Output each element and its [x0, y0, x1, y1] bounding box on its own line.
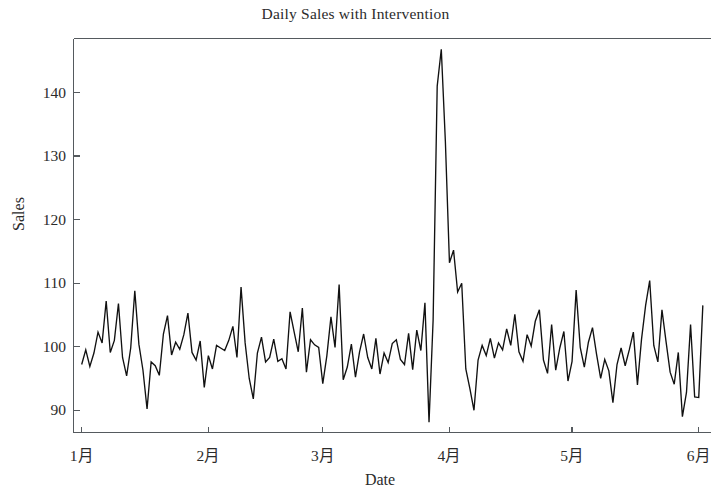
- x-axis-label: Date: [310, 471, 450, 489]
- x-tick-label: 4月: [419, 443, 479, 465]
- y-tick-label: 130: [14, 147, 66, 165]
- y-axis-label: Sales: [10, 179, 28, 249]
- y-tick-label: 90: [14, 401, 66, 419]
- y-tick-label: 100: [14, 338, 66, 356]
- chart-figure: Daily Sales with Intervention 9010011012…: [0, 0, 711, 495]
- y-tick-label: 110: [14, 274, 66, 292]
- axes-frame: [74, 39, 711, 433]
- sales-line-series: [82, 49, 703, 422]
- tick-marks: [74, 93, 699, 433]
- x-tick-label: 1月: [52, 443, 112, 465]
- x-tick-label: 3月: [293, 443, 353, 465]
- x-tick-label: 2月: [178, 443, 238, 465]
- x-tick-label: 5月: [542, 443, 602, 465]
- x-tick-label: 6月: [669, 443, 711, 465]
- y-tick-label: 140: [14, 84, 66, 102]
- plot-area: [0, 0, 711, 495]
